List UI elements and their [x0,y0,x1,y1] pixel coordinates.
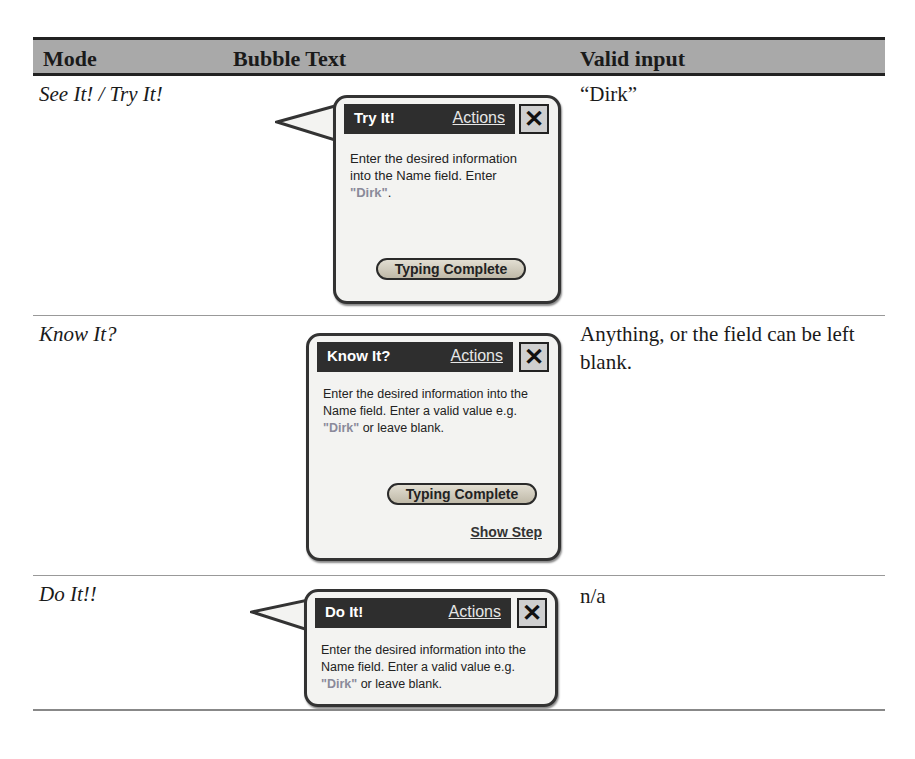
valid-input-cell: “Dirk” [580,80,880,108]
bubble-body: Enter the desired information into the N… [323,386,548,437]
row-divider [33,575,885,576]
mode-cell: Know It? [39,322,117,347]
valid-input-cell: n/a [580,582,880,610]
header-valid-input: Valid input [580,46,685,72]
bubble-titlebar: Try It! Actions [344,104,515,134]
header-mode: Mode [43,46,97,72]
typing-complete-button[interactable]: Typing Complete [376,258,526,280]
tooltip-bubble-know-it: Know It? Actions ✕ Enter the desired inf… [306,333,561,561]
bubble-title: Do It! [325,603,363,620]
bubble-titlebar: Know It? Actions [317,342,513,372]
close-icon[interactable]: ✕ [519,342,549,372]
valid-input-cell: Anything, or the field can be left blank… [580,320,870,376]
mode-cell: Do It!! [39,582,97,607]
bubble-pointer-icon [275,104,337,144]
bubble-titlebar: Do It! Actions [315,598,511,628]
bubble-title: Know It? [327,347,390,364]
table-bottom-rule [33,709,885,711]
show-step-link[interactable]: Show Step [470,524,542,540]
bubble-title: Try It! [354,109,395,126]
actions-link[interactable]: Actions [451,347,503,365]
bubble-body: Enter the desired information into the N… [321,642,546,693]
close-icon[interactable]: ✕ [517,598,547,628]
mode-cell: See It! / Try It! [39,82,163,107]
actions-link[interactable]: Actions [453,109,505,127]
tooltip-bubble-try-it: Try It! Actions ✕ Enter the desired info… [333,95,561,304]
row-divider [33,315,885,316]
tooltip-bubble-do-it: Do It! Actions ✕ Enter the desired infor… [304,589,558,707]
bubble-pointer-icon [250,598,310,634]
bubble-body: Enter the desired information into the N… [350,150,520,201]
close-icon[interactable]: ✕ [519,104,549,134]
typing-complete-button[interactable]: Typing Complete [387,483,537,505]
table-header: Mode Bubble Text Valid input [33,37,885,76]
header-bubble-text: Bubble Text [233,46,346,72]
actions-link[interactable]: Actions [449,603,501,621]
